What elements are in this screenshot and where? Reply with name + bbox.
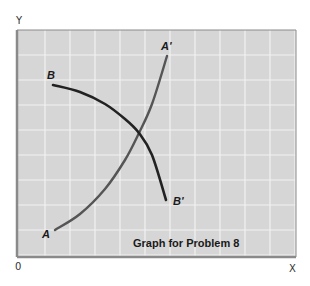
label-b-prime: B' — [173, 195, 184, 207]
origin-label: 0 — [15, 261, 21, 272]
label-b: B — [47, 69, 55, 81]
chart-caption: Graph for Problem 8 — [133, 237, 239, 249]
label-a-prime: A' — [160, 40, 172, 52]
plot-area — [17, 30, 296, 257]
label-a: A — [41, 228, 50, 240]
x-axis-label: X — [289, 263, 296, 274]
chart: Y 0 X A A' B B' Graph for Problem 8 — [0, 0, 310, 286]
y-axis-label: Y — [15, 15, 23, 26]
